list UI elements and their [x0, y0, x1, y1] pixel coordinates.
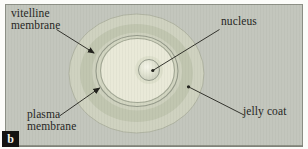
label-vitelline-membrane: vitelline membrane	[11, 8, 60, 31]
nucleus-shape	[139, 60, 160, 81]
nucleus-pointer-dot	[151, 69, 154, 72]
label-vitelline-membrane-line2: membrane	[11, 20, 60, 32]
jelly-coat-pointer-dot	[187, 85, 190, 88]
label-jelly-coat-text: jelly coat	[243, 106, 286, 118]
panel-letter-badge: b	[2, 131, 19, 147]
label-plasma-membrane-line2: membrane	[27, 121, 76, 133]
label-plasma-membrane-line1: plasma	[27, 109, 76, 121]
label-vitelline-membrane-line1: vitelline	[11, 8, 60, 20]
label-nucleus: nucleus	[221, 16, 257, 28]
label-nucleus-text: nucleus	[221, 16, 257, 28]
figure-page: vitelline membrane nucleus plasma membra…	[0, 0, 308, 149]
label-plasma-membrane: plasma membrane	[27, 109, 76, 132]
label-jelly-coat: jelly coat	[243, 106, 286, 118]
